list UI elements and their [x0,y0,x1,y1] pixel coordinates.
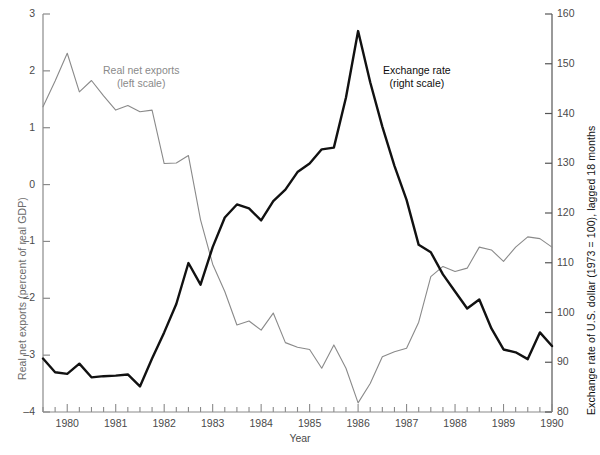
x-tick-label: 1990 [532,417,572,429]
y-tick-label-right: 100 [557,306,575,318]
y-tick-label-left: –1 [9,234,35,246]
chart-figure: Real net exports (percent of real GDP) E… [0,0,600,455]
y-tick-label-left: 2 [9,64,35,76]
series-label-line1: Real net exports [103,64,179,77]
y-axis-right-title: Exchange rate of U.S. dollar (1973 = 100… [585,126,597,415]
y-tick-label-left: 0 [9,178,35,190]
y-tick-label-right: 120 [557,206,575,218]
y-tick-label-left: –2 [9,291,35,303]
y-tick-label-right: 160 [557,7,575,19]
y-tick-label-left: –4 [9,405,35,417]
x-tick-label: 1984 [241,417,281,429]
x-tick-label: 1988 [435,417,475,429]
x-tick-label: 1987 [387,417,427,429]
x-tick-label: 1981 [96,417,136,429]
x-tick-label: 1989 [484,417,524,429]
y-tick-label-right: 90 [557,355,569,367]
series-label-real-net-exports: Real net exports (left scale) [103,64,179,90]
x-tick-label: 1982 [144,417,184,429]
y-tick-label-left: 1 [9,121,35,133]
series-label-line2: (right scale) [383,77,451,90]
y-tick-label-left: 3 [9,7,35,19]
y-tick-label-right: 80 [557,405,569,417]
y-tick-label-right: 140 [557,107,575,119]
series-line-real-net-exports [43,53,552,403]
x-tick-label: 1980 [47,417,87,429]
y-tick-label-right: 130 [557,156,575,168]
x-tick-label: 1983 [193,417,233,429]
series-label-exchange-rate: Exchange rate (right scale) [383,64,451,90]
y-tick-label-right: 150 [557,57,575,69]
y-tick-label-right: 110 [557,256,574,268]
y-tick-label-left: –3 [9,348,35,360]
series-label-line2: (left scale) [103,77,179,90]
x-tick-label: 1985 [290,417,330,429]
series-label-line1: Exchange rate [383,64,451,77]
x-tick-label: 1986 [338,417,378,429]
x-axis-title: Year [0,432,600,444]
chart-plot-area [0,0,600,455]
